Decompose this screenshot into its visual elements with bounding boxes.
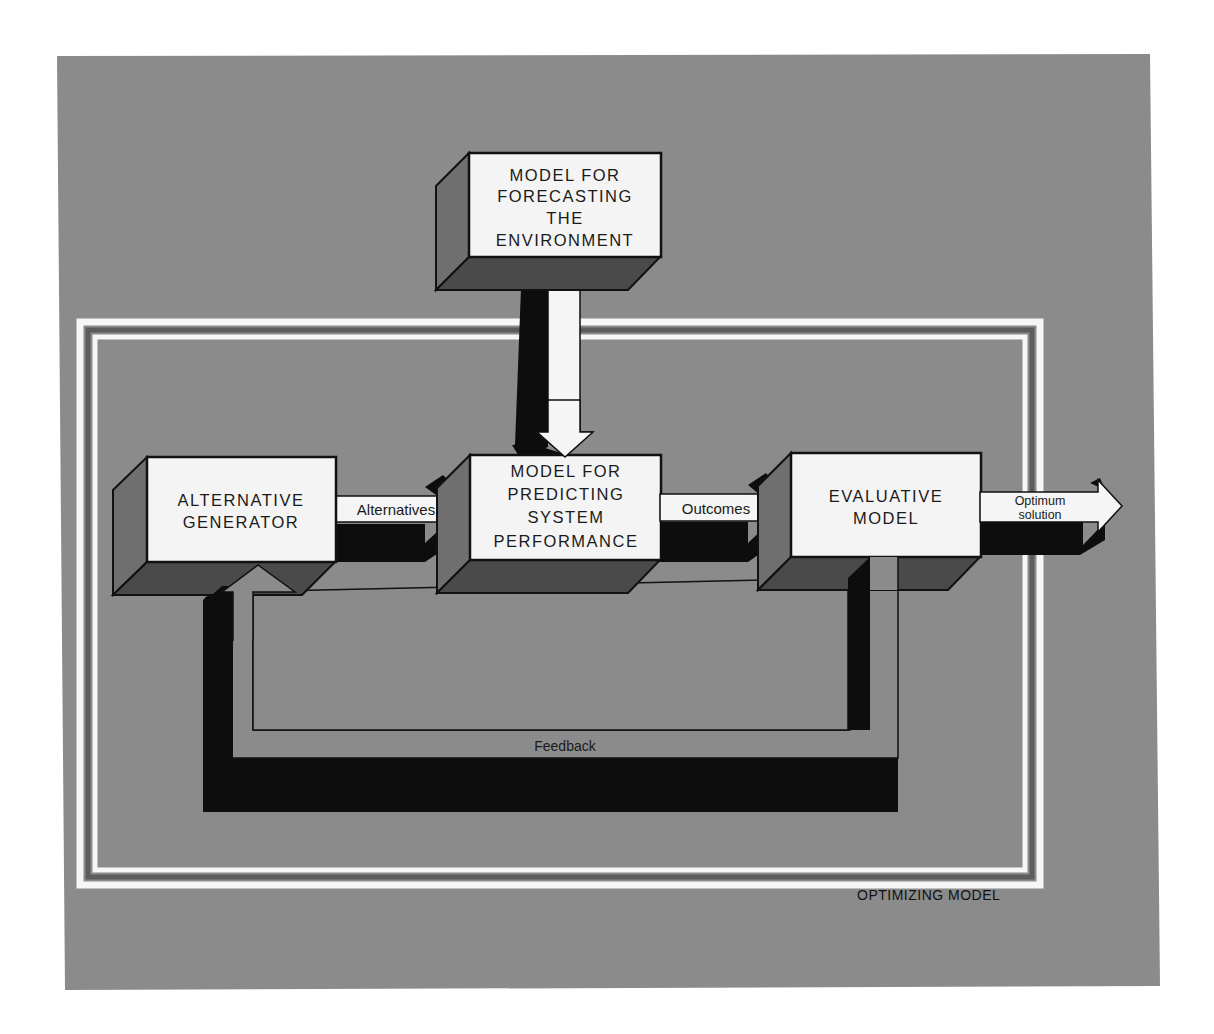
box-label-line: PERFORMANCE	[494, 532, 639, 550]
box-label-line: THE	[546, 209, 584, 227]
box-label-line: MODEL FOR	[510, 166, 621, 184]
box-forecasting-environment: MODEL FOR FORECASTING THE ENVIRONMENT	[436, 153, 661, 290]
optimizing-model-caption: OPTIMIZING MODEL	[857, 887, 1000, 903]
box-label-line: SYSTEM	[528, 508, 605, 526]
box-label-line: ALTERNATIVE	[178, 491, 305, 509]
box-label-line: PREDICTING	[508, 485, 625, 503]
outcomes-label: Outcomes	[682, 500, 750, 517]
box-label-line: MODEL	[853, 509, 919, 527]
optimum-label-line2: solution	[1018, 508, 1061, 522]
feedback-label: Feedback	[534, 738, 596, 754]
optimum-label-line1: Optimum	[1015, 494, 1066, 508]
box-label-line: GENERATOR	[183, 513, 300, 531]
feedback-arrow	[203, 560, 898, 812]
box-alternative-generator: ALTERNATIVE GENERATOR	[113, 457, 336, 595]
box-label-line: MODEL FOR	[511, 462, 622, 480]
alternatives-label: Alternatives	[357, 501, 435, 518]
optimizing-model-diagram: MODEL FOR FORECASTING THE ENVIRONMENT Al…	[0, 0, 1214, 1034]
box-label-line: FORECASTING	[497, 187, 633, 205]
box-label-line: ENVIRONMENT	[496, 231, 634, 249]
box-label-line: EVALUATIVE	[829, 487, 943, 505]
box-predicting-system-performance: MODEL FOR PREDICTING SYSTEM PERFORMANCE	[437, 455, 661, 593]
